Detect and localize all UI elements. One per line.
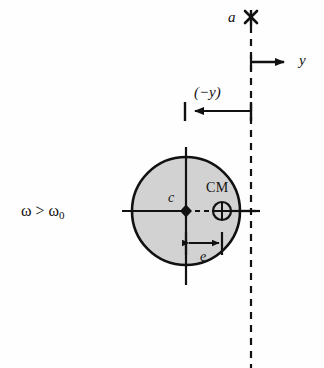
physics-diagram-figure: a y (−y) c CM e ω>ω0 [0,0,324,368]
axis-point-x-marker [245,10,257,26]
label-center-of-mass: CM [206,181,228,195]
diagram-canvas [0,0,324,368]
label-negative-y: (−y) [194,85,221,100]
omega-symbol: ω [21,202,32,219]
label-omega-condition: ω>ω0 [21,203,65,221]
greater-than-symbol: > [32,202,49,219]
label-geometric-center-c: c [168,191,174,205]
label-axis-point-a: a [228,10,236,25]
omega-zero-symbol: ω [49,202,60,219]
negative-y-dimension [185,102,251,121]
omega-zero-subscript: 0 [59,209,65,221]
center-of-mass-symbol [213,202,231,220]
y-axis-arrow [251,55,284,70]
label-eccentricity-e: e [200,250,206,264]
label-y-axis: y [299,53,306,68]
